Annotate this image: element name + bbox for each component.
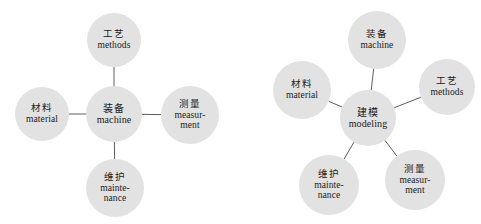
node-label-cn: 维护 [104, 172, 126, 183]
node-label-en: machine [97, 114, 132, 125]
node-left-cross-diagram-material[interactable]: 材料material [15, 87, 69, 141]
node-right-star-diagram-methods[interactable]: 工艺methods [419, 59, 475, 115]
node-label-en: mainte-nance [314, 180, 344, 201]
node-label-cn: 材料 [31, 103, 53, 114]
node-label-cn: 测量 [179, 99, 201, 110]
node-label-cn: 工艺 [103, 29, 125, 40]
edge-modeling-center-to-maintenance [344, 142, 354, 159]
node-label-en: measur-ment [399, 175, 430, 196]
node-right-star-diagram-machine[interactable]: 装备machine [348, 11, 406, 69]
edge-modeling-center-to-methods [394, 97, 421, 108]
edge-modeling-center-to-machine [371, 69, 373, 90]
node-left-cross-diagram-machine-center[interactable]: 装备machine [86, 86, 142, 142]
node-label-en: methods [98, 40, 131, 51]
node-right-star-diagram-material[interactable]: 材料material [273, 61, 331, 119]
node-label-en: machine [361, 40, 394, 51]
node-left-cross-diagram-maintenance[interactable]: 维护mainte-nance [86, 159, 144, 217]
node-label-en: mainte-nance [100, 183, 130, 204]
node-right-star-diagram-modeling-center[interactable]: 建模modeling [340, 90, 396, 146]
node-label-en: measur-ment [174, 110, 205, 131]
node-label-cn: 材料 [291, 79, 313, 90]
edge-modeling-center-to-material [329, 101, 343, 107]
node-label-cn: 维护 [318, 169, 340, 180]
diagram-canvas: 工艺methods材料material测量measur-ment维护mainte… [0, 0, 481, 224]
node-label-en: material [26, 114, 58, 125]
node-label-cn: 建模 [357, 107, 379, 118]
node-label-cn: 工艺 [436, 76, 458, 87]
node-right-star-diagram-measurment[interactable]: 测量measur-ment [385, 150, 445, 210]
node-label-en: methods [431, 87, 464, 98]
node-right-star-diagram-maintenance[interactable]: 维护mainte-nance [299, 155, 359, 215]
edge-modeling-center-to-measurment [385, 140, 397, 156]
node-left-cross-diagram-measurment[interactable]: 测量measur-ment [161, 86, 219, 144]
node-left-cross-diagram-methods[interactable]: 工艺methods [87, 13, 141, 67]
node-label-cn: 装备 [103, 103, 125, 114]
node-label-cn: 测量 [404, 164, 426, 175]
node-label-cn: 装备 [366, 29, 388, 40]
node-label-en: material [286, 90, 318, 101]
node-label-en: modeling [349, 118, 388, 129]
